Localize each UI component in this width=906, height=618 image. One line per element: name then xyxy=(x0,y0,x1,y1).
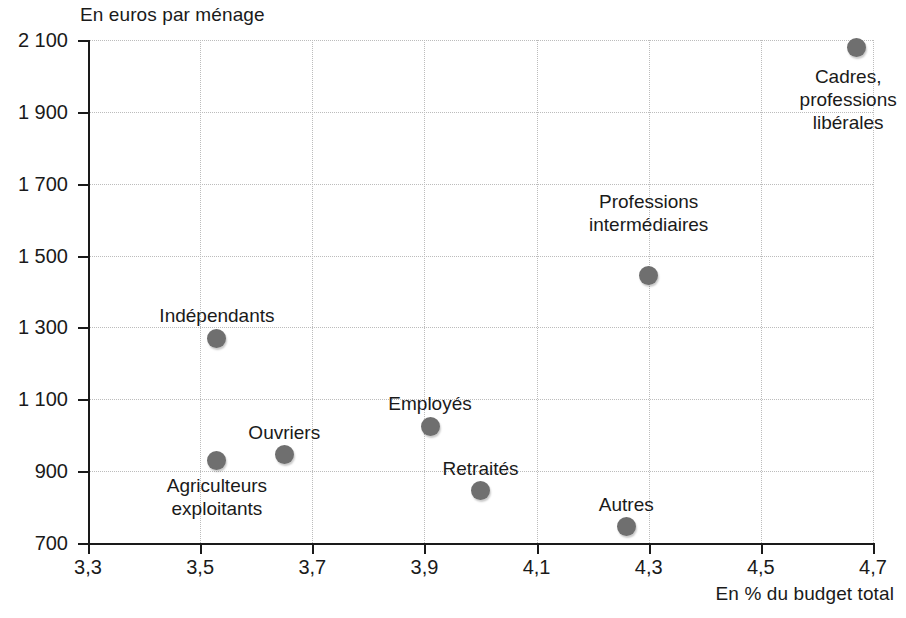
y-axis-tick-label: 900 xyxy=(35,461,68,481)
gridline-vertical xyxy=(424,40,425,543)
gridline-horizontal xyxy=(88,256,873,257)
y-axis-tick-label: 700 xyxy=(35,533,68,553)
data-point-label-independants: Indépendants xyxy=(159,304,274,327)
data-point-label-autres: Autres xyxy=(599,493,654,516)
data-point-professions-intermediaires[interactable] xyxy=(639,266,658,285)
x-axis-tick-label: 4,1 xyxy=(523,557,551,577)
plot-area: Cadres, professions libéralesProfessions… xyxy=(88,40,873,543)
gridline-horizontal xyxy=(88,399,873,400)
data-point-label-agriculteurs-exploitants: Agriculteurs exploitants xyxy=(167,474,267,520)
y-axis-tick-label: 1 500 xyxy=(18,246,68,266)
data-point-cadres-professions-liberales[interactable] xyxy=(847,38,866,57)
x-axis-tick xyxy=(537,543,539,554)
x-axis-tick xyxy=(424,543,426,554)
x-axis-tick xyxy=(200,543,202,554)
y-axis-tick xyxy=(78,327,90,329)
data-point-label-retraites: Retraités xyxy=(442,457,518,480)
y-axis-tick xyxy=(78,471,90,473)
gridline-horizontal xyxy=(88,112,873,113)
y-axis-tick xyxy=(78,399,90,401)
x-axis-line xyxy=(88,543,874,545)
x-axis-tick-label: 3,5 xyxy=(186,557,214,577)
gridline-vertical xyxy=(649,40,650,543)
y-axis-tick xyxy=(78,112,90,114)
x-axis-tick-label: 4,3 xyxy=(635,557,663,577)
x-axis-tick xyxy=(761,543,763,554)
gridline-horizontal xyxy=(88,40,873,41)
y-axis-tick-label: 1 700 xyxy=(18,174,68,194)
y-axis-tick xyxy=(78,256,90,258)
data-point-label-employes: Employés xyxy=(388,392,471,415)
x-axis-tick xyxy=(649,543,651,554)
gridline-vertical xyxy=(312,40,313,543)
y-axis-tick xyxy=(78,40,90,42)
x-axis-tick xyxy=(312,543,314,554)
data-point-label-ouvriers: Ouvriers xyxy=(248,421,320,444)
y-axis-title: En euros par ménage xyxy=(80,4,265,26)
data-point-label-cadres-professions-liberales: Cadres, professions libérales xyxy=(800,65,897,134)
gridline-vertical xyxy=(761,40,762,543)
data-point-employes[interactable] xyxy=(421,417,440,436)
y-axis-tick xyxy=(78,184,90,186)
y-axis-tick-label: 1 900 xyxy=(18,102,68,122)
x-axis-tick-label: 3,7 xyxy=(298,557,326,577)
data-point-retraites[interactable] xyxy=(471,481,490,500)
gridline-vertical xyxy=(537,40,538,543)
y-axis-tick-label: 1 100 xyxy=(18,389,68,409)
y-axis-line xyxy=(88,40,90,544)
gridline-horizontal xyxy=(88,184,873,185)
data-point-independants[interactable] xyxy=(207,329,226,348)
x-axis-tick-label: 3,3 xyxy=(74,557,102,577)
x-axis-tick-label: 3,9 xyxy=(411,557,439,577)
data-point-label-professions-intermediaires: Professions intermédiaires xyxy=(589,190,708,236)
scatter-chart: En euros par ménage En % du budget total… xyxy=(0,0,906,618)
x-axis-tick xyxy=(88,543,90,554)
gridline-horizontal xyxy=(88,327,873,328)
y-axis-tick-label: 1 300 xyxy=(18,317,68,337)
data-point-ouvriers[interactable] xyxy=(275,445,294,464)
x-axis-tick-label: 4,5 xyxy=(747,557,775,577)
gridline-vertical xyxy=(200,40,201,543)
x-axis-title: En % du budget total xyxy=(716,583,894,605)
data-point-agriculteurs-exploitants[interactable] xyxy=(207,451,226,470)
x-axis-tick-label: 4,7 xyxy=(859,557,887,577)
x-axis-tick xyxy=(873,543,875,554)
y-axis-tick-label: 2 100 xyxy=(18,30,68,50)
data-point-autres[interactable] xyxy=(617,517,636,536)
